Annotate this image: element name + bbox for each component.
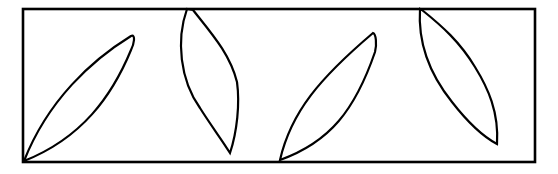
leaf-3-shape [280,33,376,160]
leaf-shapes-diagram [0,0,558,174]
leaf-4-shape [420,9,497,144]
diagram-canvas [0,0,558,174]
leaf-shapes-group [24,9,497,161]
leaf-1-shape [24,36,134,161]
leaf-2-shape [181,9,238,153]
frame-rectangle [23,9,535,162]
